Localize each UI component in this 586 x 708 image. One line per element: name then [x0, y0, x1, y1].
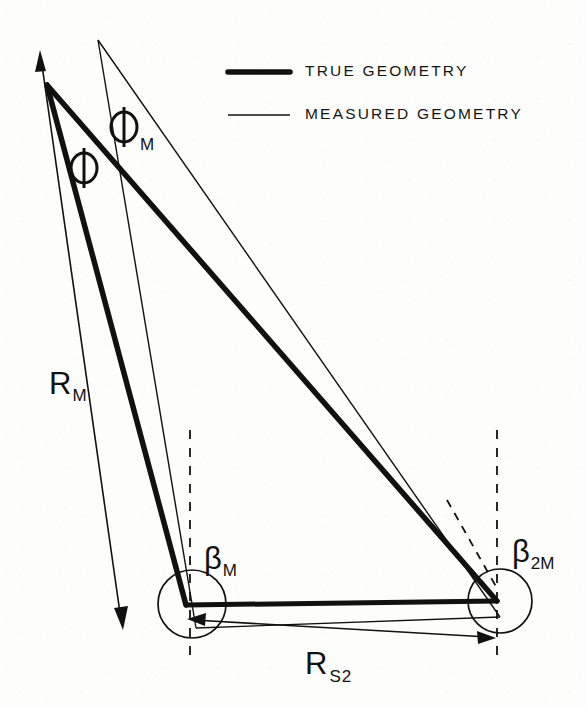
range-arrow-head-bottom — [114, 606, 128, 630]
measured-hypotenuse — [98, 40, 500, 617]
baseline-dimension-arrow — [187, 613, 496, 644]
baseline-label-rs2: RS2 — [305, 648, 350, 679]
angle-label-beta-m-subscript: M — [223, 561, 237, 580]
measured-geometry-group — [98, 40, 500, 628]
legend-label-true: TRUE GEOMETRY — [305, 63, 469, 79]
true-baseline — [186, 601, 497, 605]
true-geometry-group — [47, 85, 497, 605]
angle-label-beta-2m: β2M — [512, 536, 553, 567]
range-label-rm: RM — [49, 368, 87, 399]
figure-canvas: TRUE GEOMETRY MEASURED GEOMETRY M RM βM … — [0, 0, 586, 708]
range-arrow-head-top — [35, 50, 46, 72]
angle-label-beta-m: βM — [204, 543, 236, 574]
dashed-verticals-group — [190, 430, 497, 658]
legend-label-measured: MEASURED GEOMETRY — [305, 106, 523, 122]
range-label-rm-base: R — [49, 366, 71, 401]
range-arrow-shaft — [41, 58, 121, 620]
phi-m-subscript: M — [140, 136, 154, 153]
legend-sample-lines — [228, 72, 290, 115]
baseline-label-rs2-base: R — [305, 646, 327, 681]
angle-label-beta-m-base: β — [204, 541, 222, 576]
baseline-label-rs2-subscript: S2 — [329, 667, 352, 686]
range-label-rm-subscript: M — [72, 386, 87, 405]
angle-label-beta-2m-base: β — [512, 534, 530, 569]
angle-label-beta-2m-subscript: 2M — [531, 554, 555, 573]
